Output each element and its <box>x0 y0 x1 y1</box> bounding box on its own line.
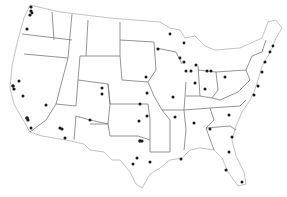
location-dot <box>228 114 231 117</box>
location-dot <box>190 70 193 73</box>
location-dot <box>228 151 231 154</box>
location-dot <box>140 139 143 142</box>
location-dot <box>22 95 25 98</box>
location-dot <box>136 157 139 160</box>
location-dot <box>272 45 275 48</box>
us-outline <box>10 5 282 188</box>
location-dot <box>183 61 186 64</box>
location-dot <box>253 94 256 97</box>
location-dot <box>101 87 104 90</box>
state-boundaries <box>10 5 282 188</box>
location-dot <box>138 120 141 123</box>
location-dot <box>174 116 177 119</box>
location-dot <box>180 158 183 161</box>
location-dot <box>172 96 175 99</box>
location-dot <box>257 85 260 88</box>
location-dot <box>30 127 33 130</box>
location-dot <box>264 61 267 64</box>
location-dot <box>194 82 197 85</box>
location-dot <box>261 71 264 74</box>
location-dot <box>169 33 172 36</box>
location-dot <box>89 119 92 122</box>
location-dot <box>206 70 209 73</box>
location-dot <box>18 80 21 83</box>
location-dot <box>193 122 196 125</box>
location-dot <box>12 87 15 90</box>
location-dot <box>45 104 48 107</box>
location-dot <box>145 76 148 79</box>
location-dot <box>146 92 149 95</box>
location-dot <box>31 12 34 15</box>
location-dot <box>183 42 186 45</box>
location-dot <box>241 181 244 184</box>
location-dot <box>179 57 182 60</box>
location-dot <box>25 27 28 30</box>
location-dot <box>209 128 212 131</box>
location-dot <box>101 93 104 96</box>
location-dot <box>210 70 213 73</box>
location-dot <box>149 161 152 164</box>
location-dot <box>29 5 32 8</box>
location-dot <box>139 103 142 106</box>
location-dot <box>26 118 29 121</box>
us-map <box>0 0 287 197</box>
location-dot <box>204 88 207 91</box>
location-dot <box>64 137 67 140</box>
location-dot <box>224 76 227 79</box>
location-dot <box>269 51 272 54</box>
location-dot <box>11 84 15 88</box>
location-dot <box>195 64 198 67</box>
location-dot <box>60 127 63 130</box>
location-dot <box>225 169 228 172</box>
location-dot <box>185 70 188 73</box>
location-dot <box>231 136 234 139</box>
location-dot <box>132 163 135 166</box>
location-dot <box>157 48 160 51</box>
location-dot <box>146 115 149 118</box>
